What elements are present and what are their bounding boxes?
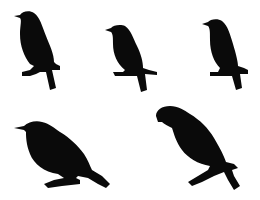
bird-silhouette-3 — [200, 18, 250, 92]
bird-5-icon — [154, 106, 248, 192]
bird-2-icon — [103, 24, 159, 94]
bird-silhouette-5 — [154, 106, 248, 192]
bird-silhouette-1 — [12, 10, 64, 92]
bird-silhouette-2 — [103, 24, 159, 94]
bird-silhouette-4 — [14, 120, 114, 192]
bird-4-icon — [14, 120, 114, 192]
bird-1-icon — [12, 10, 64, 92]
bird-3-icon — [200, 18, 250, 92]
